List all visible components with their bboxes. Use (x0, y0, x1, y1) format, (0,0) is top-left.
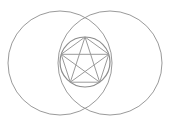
vesica-pentagram-diagram (0, 0, 169, 124)
inner-circle (60, 37, 110, 87)
